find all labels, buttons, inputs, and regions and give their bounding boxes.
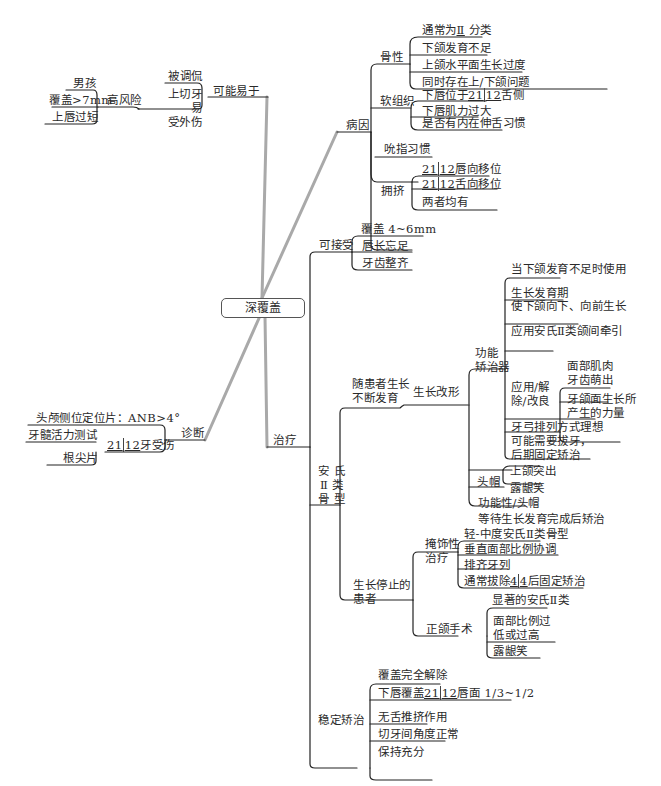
node-growth-forces[interactable]: 牙颌面生长所 产生的力量 (567, 392, 636, 420)
node-extraction-l2: 后期固定矫治 (511, 448, 592, 462)
node-maxilla-excess[interactable]: 上颌水平面生长过度 (422, 58, 526, 72)
node-incisor-injured-suffix: 牙受伤 (140, 438, 175, 452)
node-extraction-maybe[interactable]: 可能需要拔牙， 后期固定矫治 (511, 434, 592, 462)
text-post: 舌向移位 (455, 177, 501, 191)
node-facial-muscle[interactable]: 面部肌肉 (567, 359, 613, 373)
text-pre: 下唇覆盖 (378, 686, 424, 700)
node-thumb-sucking[interactable]: 吮指习惯 (384, 142, 430, 156)
node-vertical-harmony[interactable]: 垂直面部比例协调 (464, 542, 556, 556)
node-div2-text: 通常为 (422, 23, 457, 37)
node-growing-l2: 不断发育 (352, 391, 410, 405)
node-overjet-4-6[interactable]: 覆盖 4~6mm (361, 222, 437, 236)
node-teased[interactable]: 被调侃 (168, 69, 203, 83)
tooth-notation-right: 4 (518, 574, 528, 588)
node-treatment[interactable]: 治疗 (273, 433, 296, 447)
node-lip-competent[interactable]: 唇长忘足 (362, 239, 408, 253)
node-acceptable[interactable]: 可接受 (319, 238, 354, 252)
node-incisor-trauma[interactable]: 上切牙易 受外伤 (160, 87, 202, 129)
node-boy[interactable]: 男孩 (73, 76, 96, 90)
node-growth-modification[interactable]: 生长改形 (413, 385, 459, 399)
node-non-growing-l1: 生长停止的 (353, 578, 411, 592)
node-gummy-smile-hg[interactable]: 露龈笑 (510, 481, 545, 495)
tooth-notation-left: 21 (422, 162, 438, 176)
node-functional-l1: 功能 (475, 346, 510, 360)
node-orthognathic[interactable]: 正颌手术 (426, 622, 472, 636)
node-growing-l1: 随患者生长 (352, 377, 410, 391)
node-maxillary-protrusion[interactable]: 上颌突出 (510, 464, 556, 478)
connector-lines (0, 0, 661, 786)
node-growth-forces-l1: 牙颌面生长所 (567, 392, 636, 406)
node-camouflage-l2: 治疗 (425, 551, 460, 565)
central-node[interactable]: 深覆盖 (221, 298, 305, 318)
node-teeth-aligned[interactable]: 牙齿整齐 (362, 256, 408, 270)
node-facial-proportion-l1: 面部比例过 (493, 614, 551, 628)
node-fa-elastics[interactable]: 应用安氏Ⅱ类颌间牵引 (511, 324, 623, 338)
node-skeletal[interactable]: 骨性 (380, 50, 403, 64)
node-fa-when[interactable]: 当下颌发育不足时使用 (511, 262, 626, 276)
node-severe-class2[interactable]: 显著的安氏Ⅱ类 (492, 593, 569, 607)
node-class2-skeletal[interactable]: 安 氏 Ⅱ 类 骨 型 (318, 464, 346, 506)
node-arch-ideal[interactable]: 牙弓排列方式理想 (511, 420, 603, 434)
tooth-notation-left: 21 (424, 686, 440, 700)
node-fa-apply[interactable]: 应用/解 除/改良 (511, 380, 550, 408)
text-pre: 下唇位于 (422, 88, 468, 102)
node-interincisal-angle[interactable]: 切牙间角度正常 (378, 727, 459, 741)
tooth-notation-right: 12 (440, 686, 458, 700)
node-periapical[interactable]: 根尖片 (63, 451, 98, 465)
node-extraction-l1: 可能需要拔牙， (511, 434, 592, 448)
node-both-displace[interactable]: 两者均有 (422, 195, 468, 209)
node-etiology[interactable]: 病因 (346, 118, 369, 132)
node-class2-l1: 安 氏 (318, 464, 346, 478)
node-retention[interactable]: 保持充分 (378, 745, 424, 759)
node-fa-apply-l2: 除/改良 (511, 394, 550, 408)
text-post: 后固定矫治 (528, 574, 586, 588)
tooth-notation-right: 12 (438, 162, 456, 176)
text-post: 舌侧 (501, 88, 524, 102)
node-soft-tissue[interactable]: 软组织 (380, 94, 415, 108)
tooth-notation-right: 12 (438, 177, 456, 191)
node-prone[interactable]: 可能易于 (213, 84, 259, 98)
node-tooth-eruption[interactable]: 牙齿萌出 (567, 373, 613, 387)
node-lower-lip-cover[interactable]: 下唇覆盖2112唇面 1/3~1/2 (378, 686, 535, 700)
node-diagnosis[interactable]: 诊断 (181, 426, 204, 440)
node-incisor-trauma-l2: 受外伤 (160, 115, 202, 129)
node-incisor-trauma-l1: 上切牙易 (160, 87, 202, 115)
node-gummy-smile-surg[interactable]: 露龈笑 (493, 644, 528, 658)
node-overjet-corrected[interactable]: 覆盖完全解除 (378, 668, 447, 682)
node-headgear[interactable]: 头帽 (477, 475, 500, 489)
node-both-jaws[interactable]: 同时存在上/下颌问题 (422, 75, 530, 89)
node-pulp-test[interactable]: 牙髓活力测试 (28, 428, 97, 442)
node-extract-44[interactable]: 通常拔除44后固定矫治 (464, 574, 585, 588)
node-fa-growth-period[interactable]: 生长发育期 (511, 286, 569, 300)
node-functional-headgear[interactable]: 功能性/头帽 (478, 496, 540, 510)
node-camouflage[interactable]: 掩饰性 治疗 (425, 537, 460, 565)
node-mandible-deficient[interactable]: 下颌发育不足 (422, 41, 491, 55)
node-div2[interactable]: 通常为Ⅱ 分类 (422, 23, 492, 37)
node-overjet-7mm[interactable]: 覆盖>7mm (49, 93, 113, 107)
node-growing-patient[interactable]: 随患者生长 不断发育 (352, 377, 410, 405)
text-post: 唇面 1/3~1/2 (457, 686, 534, 700)
tooth-notation-left: 21 (107, 438, 123, 452)
node-lingual-displace[interactable]: 2112舌向移位 (422, 177, 501, 191)
node-crowding[interactable]: 拥挤 (381, 184, 404, 198)
node-div2-roman: Ⅱ (457, 23, 465, 37)
node-div2-after: 分类 (469, 23, 492, 37)
node-stable[interactable]: 稳定矫治 (318, 713, 364, 727)
node-short-upper-lip[interactable]: 上唇过短 (52, 110, 98, 124)
node-tongue-thrust[interactable]: 是否有内在伸舌习惯 (422, 116, 526, 130)
node-wait-growth[interactable]: 等待生长发育完成后矫治 (478, 512, 605, 526)
node-labial-displace[interactable]: 2112唇向移位 (422, 162, 501, 176)
node-no-tongue-push[interactable]: 无舌推挤作用 (378, 710, 447, 724)
node-facial-proportion[interactable]: 面部比例过 低或过高 (493, 614, 551, 642)
tooth-notation-left: 21 (468, 88, 484, 102)
node-non-growing[interactable]: 生长停止的 患者 (353, 578, 411, 606)
node-incisor-injured[interactable]: 2112牙受伤 (107, 438, 175, 452)
node-functional-appliance[interactable]: 功能 矫治器 (475, 346, 510, 374)
node-fa-forward[interactable]: 使下颌向下、向前生长 (511, 299, 626, 313)
node-lower-lip-position[interactable]: 下唇位于2112舌侧 (422, 88, 524, 102)
node-functional-l2: 矫治器 (475, 360, 510, 374)
node-mild-class2[interactable]: 轻-中度安氏Ⅱ类骨型 (464, 527, 569, 541)
tooth-notation-right: 12 (484, 88, 502, 102)
node-ceph-anb[interactable]: 头颅侧位定位片：ANB>4° (36, 411, 181, 425)
node-align-teeth[interactable]: 排齐牙列 (464, 558, 510, 572)
